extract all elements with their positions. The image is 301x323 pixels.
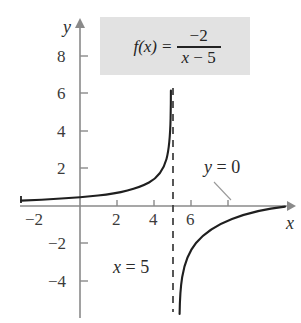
function-formula: f(x) = −2 x − 5: [104, 24, 250, 70]
formula-denominator-constant: 5: [207, 48, 216, 67]
function-graph-figure: f(x) = −2 x − 5 8 6 4 2 −2 −4 −2 2 4 6 y…: [0, 0, 301, 323]
formula-denominator-operator: −: [193, 48, 203, 67]
y-equals-zero-leader-line: [214, 182, 231, 200]
vertical-asymptote-label: x = 5: [113, 258, 149, 276]
y-axis-label: y: [63, 18, 71, 36]
curve-right-branch: [180, 207, 285, 314]
y-tick-label-6: 6: [57, 85, 66, 102]
horizontal-asymptote-variable: y: [204, 157, 212, 177]
x-axis-arrowhead: [287, 201, 296, 211]
vertical-asymptote-value: 5: [140, 257, 149, 277]
formula-equals: =: [162, 37, 172, 57]
formula-lhs: f(x): [133, 37, 157, 57]
x-tick-label-4: 4: [149, 211, 158, 228]
vertical-asymptote-operator: =: [126, 257, 136, 277]
y-axis-arrowhead: [75, 18, 85, 28]
y-tick-label-4: 4: [57, 123, 66, 140]
y-tick-label-minus-2: −2: [48, 235, 66, 252]
formula-fraction: −2 x − 5: [177, 27, 221, 67]
x-axis-label: x: [286, 214, 294, 232]
y-tick-label-8: 8: [57, 48, 66, 65]
formula-numerator: −2: [186, 27, 212, 46]
x-tick-label-minus-2: −2: [25, 211, 43, 228]
horizontal-asymptote-operator: =: [217, 157, 227, 177]
x-tick-label-6: 6: [186, 211, 195, 228]
formula-denominator-variable: x: [182, 48, 190, 67]
y-tick-label-minus-4: −4: [48, 273, 66, 290]
x-tick-label-2: 2: [112, 211, 121, 228]
curve-left-branch: [21, 91, 171, 201]
horizontal-asymptote-label: y = 0: [204, 158, 240, 176]
horizontal-asymptote-value: 0: [231, 157, 240, 177]
vertical-asymptote-variable: x: [113, 257, 121, 277]
formula-denominator: x − 5: [178, 48, 220, 67]
y-tick-label-2: 2: [57, 160, 66, 177]
